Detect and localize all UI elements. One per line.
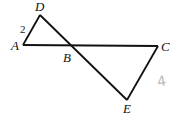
label-b: B: [63, 50, 71, 65]
segment-ad: [23, 15, 40, 45]
segment-de: [40, 15, 127, 100]
label-a: A: [10, 38, 19, 53]
length-ad: 2: [20, 23, 26, 35]
segment-ac: [23, 45, 158, 46]
label-d: D: [34, 0, 45, 14]
geometry-diagram: D A B C E 2 4: [0, 0, 175, 119]
label-e: E: [122, 101, 131, 116]
segment-ce: [127, 46, 158, 100]
handwritten-mark: 4: [156, 72, 168, 89]
label-c: C: [161, 39, 170, 54]
